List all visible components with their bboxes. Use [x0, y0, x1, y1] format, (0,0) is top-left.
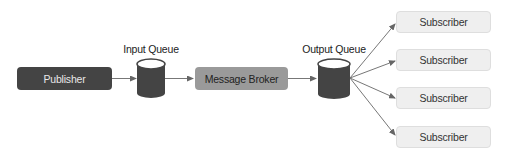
output-queue-label: Output Queue [299, 43, 369, 55]
subscriber-node-3: Subscriber [396, 87, 491, 109]
output-queue-cylinder-icon [318, 59, 350, 99]
message-broker-node: Message Broker [195, 67, 288, 90]
arrow-to-subscriber-3 [350, 78, 395, 98]
input-queue-label: Input Queue [121, 43, 181, 55]
input-queue-cylinder-icon [137, 59, 165, 98]
publisher-node: Publisher [17, 67, 112, 90]
subscriber-node-4: Subscriber [396, 126, 491, 148]
arrow-to-subscriber-4 [350, 78, 395, 135]
subscriber-node-1: Subscriber [396, 11, 491, 33]
subscriber-node-2: Subscriber [396, 49, 491, 71]
